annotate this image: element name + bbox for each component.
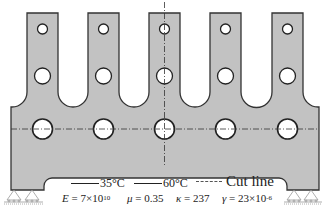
param-symbol: γ <box>222 192 226 204</box>
param-E: E = 7×1010 <box>62 192 110 204</box>
param-mu: μ = 0.35 <box>127 192 164 204</box>
left-supports <box>4 190 43 204</box>
param-value: = 7×10 <box>71 192 103 204</box>
legend-item-cut-line: Cut line <box>196 173 274 190</box>
solid-line-swatch <box>71 183 99 184</box>
solid-line-swatch <box>134 183 162 184</box>
dashed-line-swatch <box>196 181 222 182</box>
param-kappa: κ = 237 <box>176 192 210 204</box>
param-symbol: μ <box>127 192 133 204</box>
medium-holes <box>35 68 296 84</box>
param-value: = 23×10 <box>229 192 266 204</box>
param-value: = 0.35 <box>135 192 163 204</box>
legend-item-35c: 35°C <box>71 176 125 191</box>
legend-label: Cut line <box>226 173 274 190</box>
plate-body <box>11 13 319 190</box>
legend-label: 60°C <box>163 176 188 191</box>
param-symbol: κ <box>176 192 181 204</box>
param-exponent: 10 <box>103 194 110 202</box>
legend-item-60c: 60°C <box>134 176 188 191</box>
param-gamma: γ = 23×10-6 <box>222 192 272 204</box>
legend-label: 35°C <box>100 176 125 191</box>
param-value: = 237 <box>184 192 209 204</box>
param-symbol: E <box>62 192 69 204</box>
right-supports <box>284 190 322 204</box>
small-holes <box>38 24 293 34</box>
param-exponent: -6 <box>266 194 272 202</box>
